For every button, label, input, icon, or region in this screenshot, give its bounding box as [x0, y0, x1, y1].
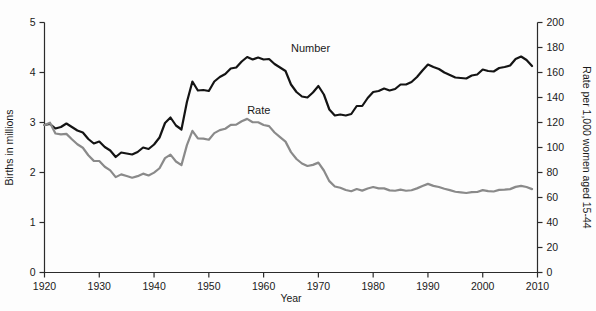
x-axis-tick-label: 1990 — [416, 280, 440, 292]
y2-axis-tick-label: 80 — [547, 166, 559, 178]
series-line-number — [45, 57, 533, 158]
x-axis-tick-label: 2010 — [526, 280, 550, 292]
y-axis-title: Births in millions — [3, 110, 15, 186]
y2-axis-tick-label: 140 — [547, 91, 565, 103]
y-axis-tick-label: 5 — [30, 16, 36, 28]
series-annotation-rate: Rate — [247, 104, 270, 116]
y2-axis-tick-label: 180 — [547, 41, 565, 53]
x-axis-tick-label: 1940 — [142, 280, 166, 292]
chart-figure: 0123450204060801001201401601802001920193… — [0, 0, 596, 311]
x-axis-tick-label: 1950 — [197, 280, 221, 292]
y-axis-tick-label: 3 — [30, 116, 36, 128]
y2-axis-tick-label: 100 — [547, 141, 565, 153]
x-axis-tick-label: 1980 — [361, 280, 385, 292]
x-axis-tick-label: 1970 — [307, 280, 331, 292]
y2-axis-tick-label: 120 — [547, 116, 565, 128]
y2-axis-tick-label: 0 — [547, 266, 553, 278]
y-axis-tick-label: 2 — [30, 166, 36, 178]
x-axis-tick-label: 2000 — [471, 280, 495, 292]
x-axis-tick-label: 1930 — [88, 280, 112, 292]
y-axis-tick-label: 0 — [30, 266, 36, 278]
y2-axis-tick-label: 160 — [547, 66, 565, 78]
y2-axis-tick-label: 200 — [547, 16, 565, 28]
y-axis-tick-label: 1 — [30, 216, 36, 228]
x-axis-tick-label: 1960 — [252, 280, 276, 292]
y2-axis-tick-label: 60 — [547, 191, 559, 203]
y2-axis-tick-label: 20 — [547, 241, 559, 253]
x-axis-tick-label: 1920 — [33, 280, 57, 292]
series-annotation-number: Number — [291, 42, 330, 54]
y2-axis-tick-label: 40 — [547, 216, 559, 228]
y-axis-tick-label: 4 — [30, 66, 36, 78]
y2-axis-title: Rate per 1,000 women aged 15-44 — [581, 66, 593, 228]
chart-canvas: 0123450204060801001201401601802001920193… — [0, 0, 596, 311]
x-axis-title: Year — [280, 292, 302, 304]
axis-frame — [45, 23, 538, 273]
